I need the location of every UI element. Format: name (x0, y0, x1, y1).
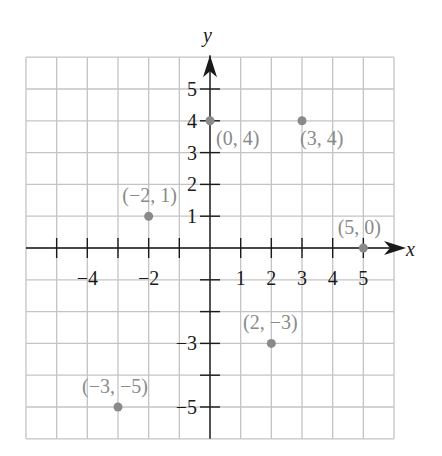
x-tick-label: −2 (138, 267, 159, 289)
data-point (113, 403, 122, 412)
y-tick-label: 2 (187, 173, 197, 195)
y-tick-label: 3 (187, 142, 197, 164)
x-tick-label: 2 (266, 267, 276, 289)
data-point (206, 116, 215, 125)
data-point (267, 339, 276, 348)
point-label: (2, −3) (243, 311, 298, 334)
x-tick-label: 4 (328, 267, 338, 289)
data-point (144, 212, 153, 221)
point-label: (3, 4) (300, 127, 343, 150)
y-tick-label: 4 (187, 110, 197, 132)
x-tick-label: −4 (77, 267, 98, 289)
point-label: (−2, 1) (122, 184, 177, 207)
y-tick-label: 5 (187, 78, 197, 100)
x-axis-ticks: −4−212345 (57, 238, 369, 289)
point-label: (5, 0) (338, 216, 381, 239)
y-tick-label: −3 (176, 332, 197, 354)
y-tick-label: −5 (176, 396, 197, 418)
plotted-points: (0, 4)(3, 4)(−2, 1)(5, 0)(2, −3)(−3, −5) (82, 116, 381, 411)
coordinate-plane: −4−212345 54321−3−5 (0, 4)(3, 4)(−2, 1)(… (0, 0, 442, 456)
data-point (298, 116, 307, 125)
x-tick-label: 5 (358, 267, 368, 289)
point-label: (−3, −5) (82, 375, 148, 398)
data-point (359, 244, 368, 253)
x-axis-label: x (405, 238, 415, 260)
y-axis-label: y (201, 24, 212, 47)
point-label: (0, 4) (216, 127, 259, 150)
y-tick-label: 1 (187, 205, 197, 227)
x-tick-label: 1 (236, 267, 246, 289)
x-tick-label: 3 (297, 267, 307, 289)
